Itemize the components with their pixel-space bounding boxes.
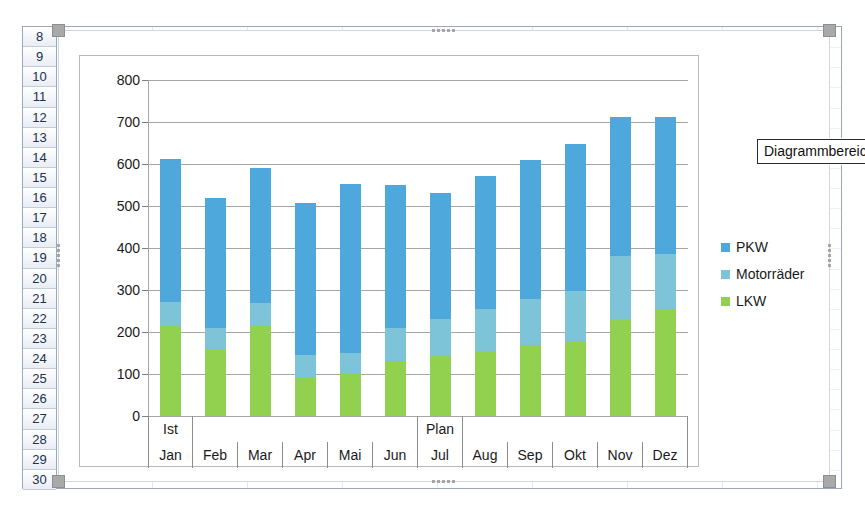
bar-segment-lkw-jul[interactable] [430, 356, 451, 416]
row-header-23[interactable]: 23 [23, 329, 56, 349]
bar-stack-jul[interactable] [430, 80, 451, 416]
bar-stack-sep[interactable] [520, 80, 541, 416]
plot-frame[interactable]: IstPlanJanFebMarAprMaiJunJulAugSepOktNov… [79, 55, 699, 467]
bar-segment-pkw-apr[interactable] [295, 203, 316, 355]
category-label-jan: Jan [148, 442, 193, 468]
row-header-25[interactable]: 25 [23, 369, 56, 389]
bar-segment-lkw-okt[interactable] [565, 341, 586, 416]
resize-handle-bottom-left[interactable] [52, 475, 65, 488]
row-header-27[interactable]: 27 [23, 409, 56, 429]
bar-stack-mar[interactable] [250, 80, 271, 416]
resize-handle-left-center[interactable] [56, 243, 61, 269]
bar-segment-lkw-dez[interactable] [655, 309, 676, 416]
y-axis-tick-mark [142, 80, 148, 81]
bar-segment-motorrder-feb[interactable] [205, 328, 226, 349]
bar-segment-motorrder-jan[interactable] [160, 302, 181, 326]
resize-handle-top-right[interactable] [823, 24, 836, 37]
category-axis-group-tier: IstPlan [148, 416, 688, 442]
resize-handle-right-center[interactable] [827, 243, 832, 269]
chart-legend[interactable]: PKWMotorräderLKW [721, 239, 804, 320]
bar-segment-motorrder-jul[interactable] [430, 319, 451, 356]
bar-stack-nov[interactable] [610, 80, 631, 416]
bar-stack-dez[interactable] [655, 80, 676, 416]
row-header-20[interactable]: 20 [23, 269, 56, 289]
chart-object[interactable]: IstPlanJanFebMarAprMaiJunJulAugSepOktNov… [58, 30, 830, 482]
y-gridline-300 [148, 290, 688, 291]
legend-item-lkw[interactable]: LKW [721, 293, 804, 309]
bar-segment-lkw-jan[interactable] [160, 326, 181, 416]
bar-segment-pkw-sep[interactable] [520, 160, 541, 299]
category-label-apr: Apr [283, 442, 328, 468]
plot-area[interactable] [148, 80, 688, 416]
bar-segment-lkw-nov[interactable] [610, 319, 631, 416]
row-header-12[interactable]: 12 [23, 108, 56, 128]
resize-handle-top-center[interactable] [431, 28, 457, 33]
bar-segment-lkw-aug[interactable] [475, 351, 496, 416]
category-label-mai: Mai [328, 442, 373, 468]
bar-segment-lkw-feb[interactable] [205, 349, 226, 416]
bar-segment-motorrder-mai[interactable] [340, 353, 361, 374]
legend-item-motorrder[interactable]: Motorräder [721, 266, 804, 282]
bar-segment-motorrder-jun[interactable] [385, 328, 406, 362]
bar-segment-pkw-mar[interactable] [250, 168, 271, 303]
bar-segment-pkw-dez[interactable] [655, 117, 676, 255]
category-label-aug: Aug [463, 442, 508, 468]
bar-segment-lkw-jun[interactable] [385, 361, 406, 416]
row-header-17[interactable]: 17 [23, 208, 56, 228]
bar-segment-pkw-feb[interactable] [205, 198, 226, 327]
row-header-15[interactable]: 15 [23, 168, 56, 188]
bar-segment-motorrder-sep[interactable] [520, 299, 541, 345]
bar-stack-apr[interactable] [295, 80, 316, 416]
bar-segment-motorrder-apr[interactable] [295, 355, 316, 378]
bar-segment-pkw-nov[interactable] [610, 117, 631, 256]
category-group-plan: Plan [418, 416, 463, 442]
row-header-11[interactable]: 11 [23, 87, 56, 107]
resize-handle-bottom-center[interactable] [431, 479, 457, 484]
bar-stack-jun[interactable] [385, 80, 406, 416]
y-axis-tick-mark [142, 332, 148, 333]
category-axis-month-tier: JanFebMarAprMaiJunJulAugSepOktNovDez [148, 442, 688, 468]
row-header-18[interactable]: 18 [23, 228, 56, 248]
bar-stack-okt[interactable] [565, 80, 586, 416]
row-header-13[interactable]: 13 [23, 128, 56, 148]
row-header-26[interactable]: 26 [23, 389, 56, 409]
row-header-19[interactable]: 19 [23, 248, 56, 268]
bar-segment-motorrder-okt[interactable] [565, 291, 586, 341]
resize-handle-top-left[interactable] [52, 24, 65, 37]
row-header-21[interactable]: 21 [23, 289, 56, 309]
y-axis-tick-label: 0 [94, 408, 140, 424]
bar-segment-pkw-mai[interactable] [340, 184, 361, 353]
row-header-14[interactable]: 14 [23, 148, 56, 168]
y-axis-tick-mark [142, 122, 148, 123]
row-header-22[interactable]: 22 [23, 309, 56, 329]
legend-item-pkw[interactable]: PKW [721, 239, 804, 255]
bar-segment-lkw-sep[interactable] [520, 345, 541, 416]
chart-area-tooltip: Diagrammbereich [757, 139, 865, 164]
bar-segment-lkw-apr[interactable] [295, 378, 316, 416]
bar-stack-jan[interactable] [160, 80, 181, 416]
row-header-16[interactable]: 16 [23, 188, 56, 208]
bar-segment-pkw-jan[interactable] [160, 159, 181, 302]
bar-segment-motorrder-aug[interactable] [475, 309, 496, 351]
bar-segment-pkw-aug[interactable] [475, 176, 496, 309]
bar-stack-mai[interactable] [340, 80, 361, 416]
bar-stack-feb[interactable] [205, 80, 226, 416]
bar-stack-aug[interactable] [475, 80, 496, 416]
bar-segment-lkw-mai[interactable] [340, 374, 361, 416]
bar-segment-motorrder-dez[interactable] [655, 254, 676, 309]
bar-segment-pkw-okt[interactable] [565, 144, 586, 291]
row-header-24[interactable]: 24 [23, 349, 56, 369]
bar-segment-motorrder-nov[interactable] [610, 256, 631, 319]
resize-handle-bottom-right[interactable] [823, 475, 836, 488]
row-header-28[interactable]: 28 [23, 430, 56, 450]
row-header-10[interactable]: 10 [23, 67, 56, 87]
bar-segment-pkw-jul[interactable] [430, 193, 451, 319]
y-axis-tick-mark [142, 290, 148, 291]
y-axis-tick-mark [142, 416, 148, 417]
bar-segment-motorrder-mar[interactable] [250, 303, 271, 326]
row-header-9[interactable]: 9 [23, 47, 56, 67]
y-axis-tick-label: 100 [94, 366, 140, 382]
bar-segment-pkw-jun[interactable] [385, 185, 406, 328]
row-header-29[interactable]: 29 [23, 450, 56, 470]
bar-segment-lkw-mar[interactable] [250, 326, 271, 416]
